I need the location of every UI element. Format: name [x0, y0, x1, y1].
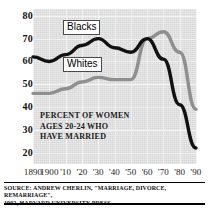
annotation-line-1: PERCENT OF WOMEN	[40, 111, 130, 122]
y-axis-tick-60: 60	[7, 56, 33, 66]
x-axis-tick-1900: 1900	[40, 167, 58, 177]
series-label-whites: Whites	[63, 57, 102, 72]
gridline-vertical	[196, 9, 197, 164]
chart-figure: 80706050403020 18901900'10'20'30'40'50'6…	[0, 0, 209, 210]
annotation-line-3: HAVE MARRIED	[40, 132, 130, 143]
y-axis-tick-50: 50	[7, 79, 33, 89]
y-axis-tick-70: 70	[7, 34, 33, 44]
x-axis-tick-1930: '30	[93, 167, 104, 177]
x-axis-tick-1980: '80	[174, 167, 185, 177]
y-axis-tick-30: 30	[7, 125, 33, 135]
y-axis-tick-20: 20	[7, 148, 33, 158]
series-label-blacks: Blacks	[63, 20, 100, 35]
x-axis-tick-1990: '90	[191, 167, 202, 177]
bottom-rule	[4, 203, 205, 205]
x-axis-tick-1940: '40	[109, 167, 120, 177]
x-axis-tick-1960: '60	[142, 167, 153, 177]
footer-divider	[4, 182, 205, 183]
x-axis-tick-1970: '70	[158, 167, 169, 177]
source-line-1: SOURCE: ANDREW CHERLIN, "MARRIAGE, DIVOR…	[4, 185, 206, 200]
annotation-line-2: AGES 20-24 WHO	[40, 122, 130, 133]
x-axis-tick-1950: '50	[125, 167, 136, 177]
y-axis-tick-80: 80	[7, 11, 33, 21]
x-axis-tick-1910: '10	[60, 167, 71, 177]
x-axis-tick-1920: '20	[76, 167, 87, 177]
x-axis-tick-labels: 18901900'10'20'30'40'50'60'70'80'90	[20, 167, 206, 181]
series-line-whites	[33, 32, 196, 110]
chart-annotation: PERCENT OF WOMEN AGES 20-24 WHO HAVE MAR…	[40, 111, 130, 143]
y-axis-tick-40: 40	[7, 102, 33, 112]
